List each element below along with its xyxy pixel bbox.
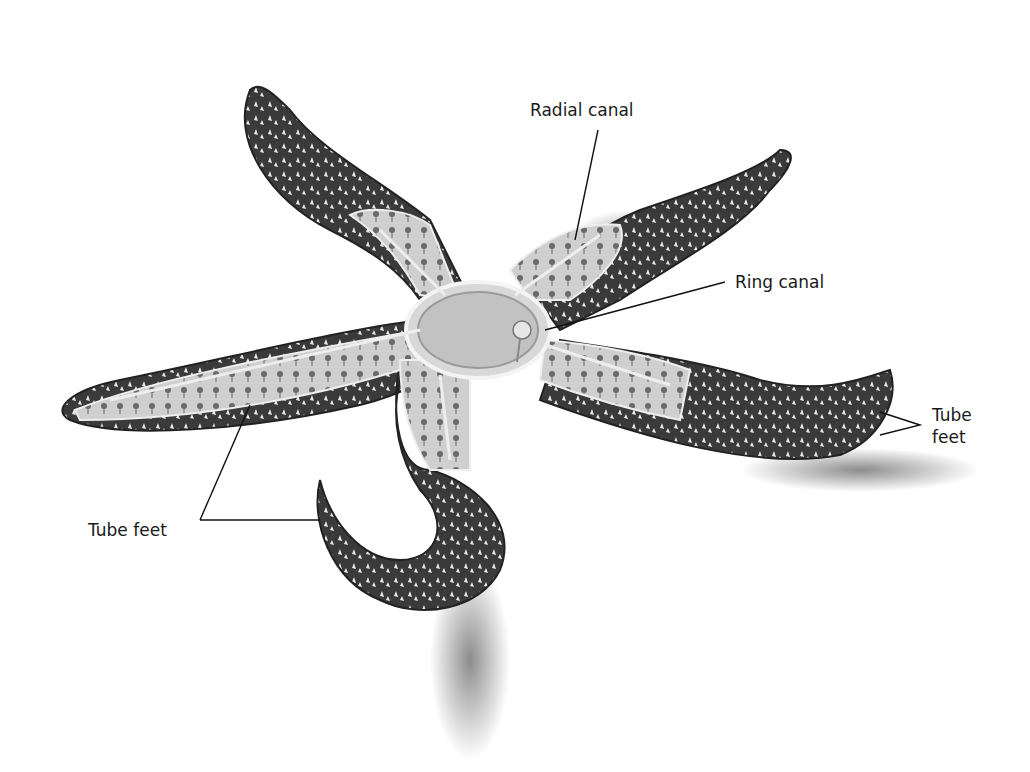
label-radial-canal: Radial canal <box>530 100 634 120</box>
label-ring-canal: Ring canal <box>735 272 824 292</box>
madreporite <box>513 321 531 339</box>
sea-star-illustration <box>0 0 1030 772</box>
label-tube-feet-right: Tube feet <box>932 404 972 448</box>
diagram-canvas: Radial canal Ring canal Tube feet Tube f… <box>0 0 1030 772</box>
label-tube-feet-left: Tube feet <box>88 520 167 540</box>
